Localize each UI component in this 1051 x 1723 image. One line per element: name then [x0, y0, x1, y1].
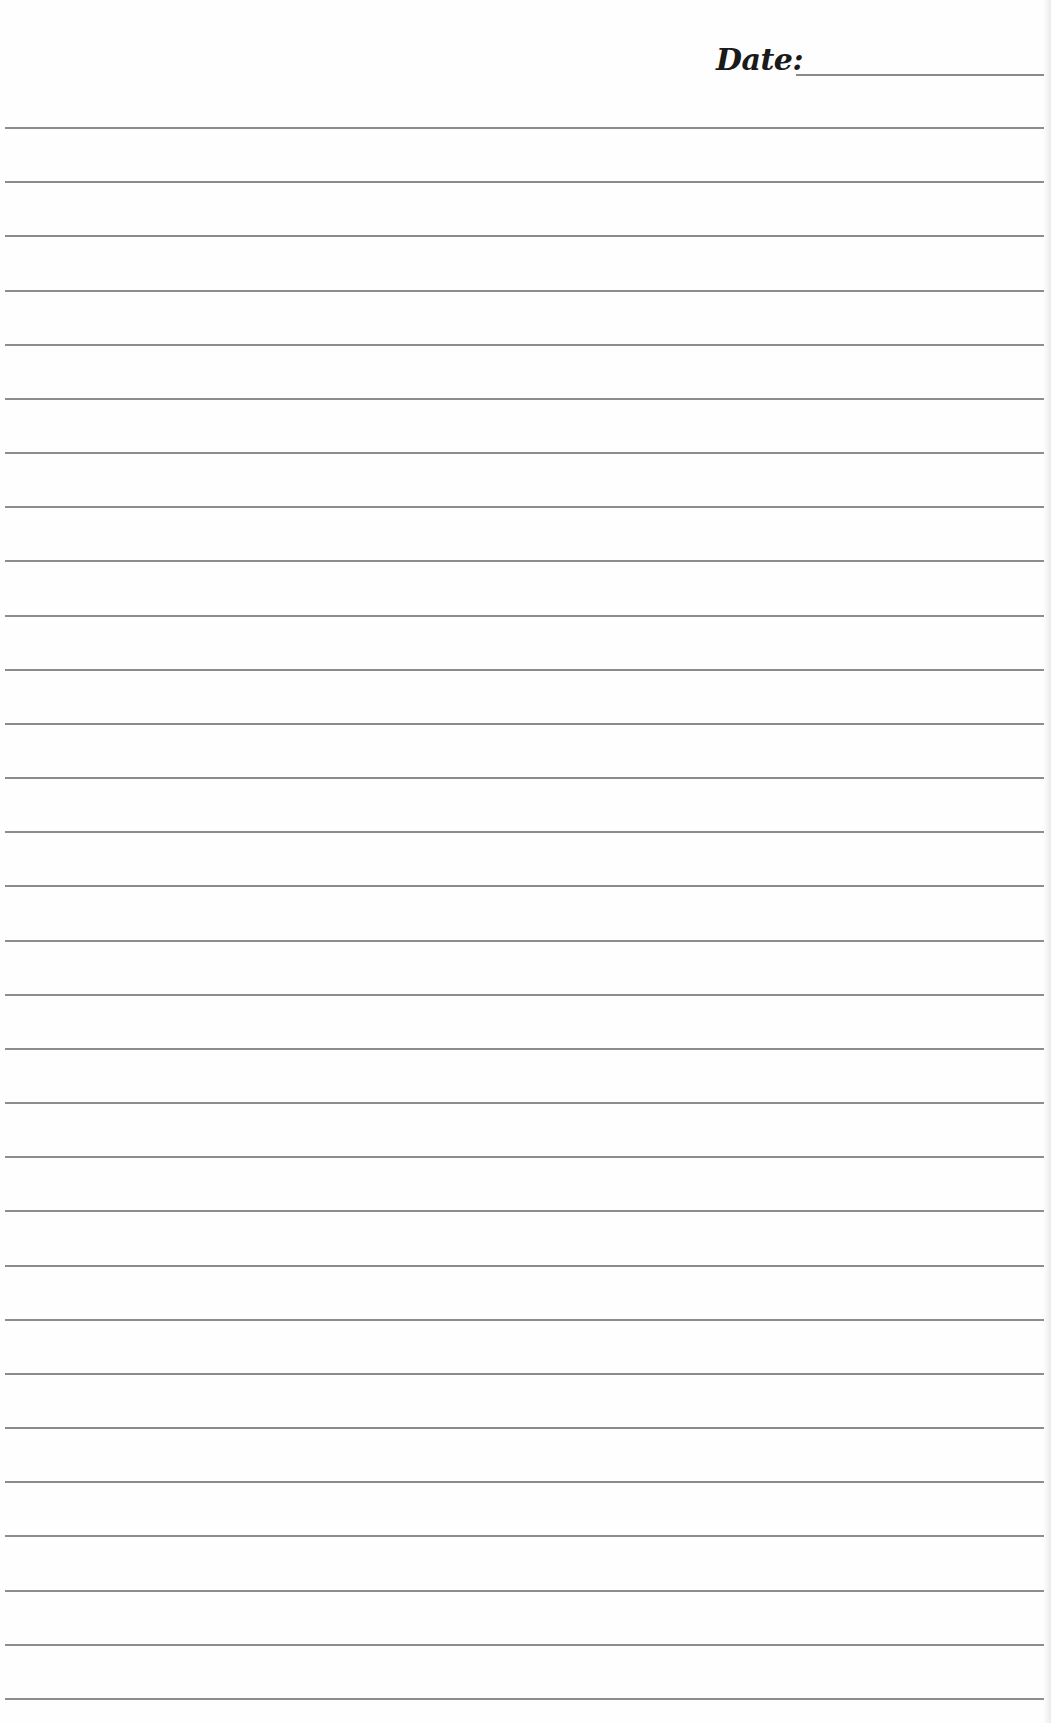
- writing-line[interactable]: [5, 344, 1044, 346]
- writing-line[interactable]: [5, 615, 1044, 617]
- writing-line[interactable]: [5, 940, 1044, 942]
- page-edge-shadow: [1043, 0, 1051, 1723]
- writing-line[interactable]: [5, 290, 1044, 292]
- writing-line[interactable]: [5, 1535, 1044, 1537]
- writing-line[interactable]: [5, 398, 1044, 400]
- writing-line[interactable]: [5, 1102, 1044, 1104]
- writing-line[interactable]: [5, 1319, 1044, 1321]
- writing-line[interactable]: [5, 1210, 1044, 1212]
- writing-line[interactable]: [5, 777, 1044, 779]
- writing-line[interactable]: [5, 669, 1044, 671]
- writing-line[interactable]: [5, 994, 1044, 996]
- writing-line[interactable]: [5, 452, 1044, 454]
- writing-line[interactable]: [5, 1156, 1044, 1158]
- writing-line[interactable]: [5, 235, 1044, 237]
- date-area: Date:: [714, 42, 1046, 82]
- writing-line[interactable]: [5, 831, 1044, 833]
- writing-line[interactable]: [5, 1373, 1044, 1375]
- writing-line[interactable]: [5, 181, 1044, 183]
- writing-line[interactable]: [5, 885, 1044, 887]
- writing-line[interactable]: [5, 1590, 1044, 1592]
- writing-line[interactable]: [5, 1481, 1044, 1483]
- writing-line[interactable]: [5, 1698, 1044, 1700]
- date-label: Date:: [716, 42, 803, 77]
- writing-line[interactable]: [5, 1265, 1044, 1267]
- writing-line[interactable]: [5, 1644, 1044, 1646]
- writing-line[interactable]: [5, 1048, 1044, 1050]
- writing-line[interactable]: [5, 506, 1044, 508]
- writing-line[interactable]: [5, 560, 1044, 562]
- date-field[interactable]: [796, 74, 1044, 76]
- notebook-page: Date:: [0, 0, 1051, 1723]
- writing-line[interactable]: [5, 1427, 1044, 1429]
- writing-line[interactable]: [5, 127, 1044, 129]
- writing-line[interactable]: [5, 723, 1044, 725]
